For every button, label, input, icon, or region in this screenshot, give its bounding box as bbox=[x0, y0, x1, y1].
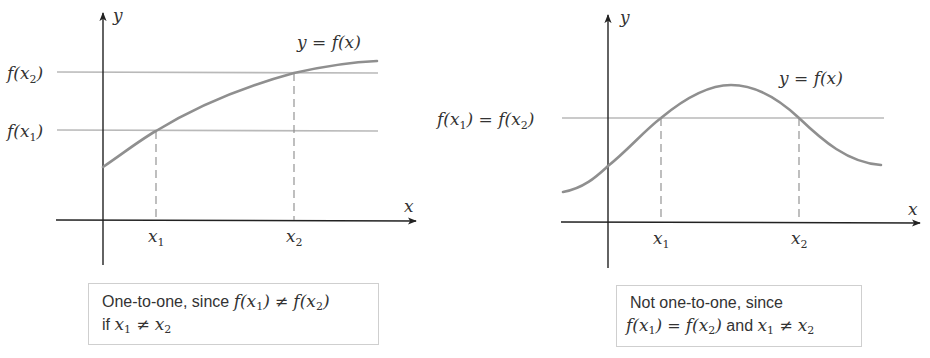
f-x1-label: f(x1) bbox=[5, 121, 43, 144]
caption-math: x2 bbox=[155, 314, 172, 334]
equals-sign: = bbox=[662, 316, 686, 335]
x1-tick-label: x1 bbox=[148, 226, 165, 249]
caption-math: x1 bbox=[757, 315, 774, 335]
f-x1-reference-line bbox=[57, 130, 378, 131]
right-caption-line-1: Not one-to-one, since bbox=[630, 292, 861, 314]
left-caption-box: One-to-one, since f(x1) ≠ f(x2) if x1 ≠ … bbox=[88, 283, 379, 345]
x2-tick-label: x2 bbox=[286, 226, 303, 249]
caption-math: f(x1) bbox=[626, 315, 662, 335]
right-graph: y x y = f(x) f(x1) = f(x2) x1 x2 bbox=[435, 7, 920, 268]
caption-text: if bbox=[102, 316, 114, 333]
not-equal-sign: ≠ bbox=[774, 316, 798, 335]
left-caption-line-2: if x1 ≠ x2 bbox=[102, 313, 378, 336]
right-function-label: y = f(x) bbox=[778, 68, 843, 88]
caption-math: x2 bbox=[798, 315, 815, 335]
x2-tick-label: x2 bbox=[791, 228, 808, 251]
f-x2-label: f(x2) bbox=[5, 63, 43, 86]
right-caption-line-2: f(x1) = f(x2) and x1 ≠ x2 bbox=[626, 314, 861, 337]
not-equal-sign: ≠ bbox=[131, 315, 155, 334]
caption-text: One-to-one, since bbox=[102, 293, 234, 310]
left-function-label: y = f(x) bbox=[296, 32, 361, 52]
left-caption-line-1: One-to-one, since f(x1) ≠ f(x2) bbox=[102, 290, 378, 313]
not-equal-sign: ≠ bbox=[270, 292, 294, 311]
right-x-axis-label: x bbox=[908, 199, 918, 219]
caption-math: f(x1) bbox=[234, 291, 270, 311]
caption-text: and bbox=[722, 317, 758, 334]
left-x-axis-label: x bbox=[404, 196, 414, 216]
caption-text: Not one-to-one, since bbox=[630, 294, 783, 311]
left-y-axis-label: y bbox=[112, 5, 123, 25]
left-x-axis bbox=[56, 220, 416, 221]
increasing-curve bbox=[103, 61, 377, 167]
bell-shaped-curve bbox=[563, 85, 881, 192]
right-y-axis-label: y bbox=[619, 7, 630, 27]
left-graph: y x y = f(x) f(x2) f(x1) x1 x2 bbox=[5, 5, 416, 265]
x1-tick-label: x1 bbox=[653, 228, 670, 251]
caption-math: f(x2) bbox=[293, 291, 329, 311]
right-caption-box: Not one-to-one, since f(x1) = f(x2) and … bbox=[616, 285, 862, 347]
f-x2-reference-line bbox=[57, 72, 378, 73]
caption-math: x1 bbox=[114, 314, 131, 334]
right-x-axis bbox=[561, 222, 920, 223]
caption-math: f(x2) bbox=[686, 315, 722, 335]
equal-values-label: f(x1) = f(x2) bbox=[435, 109, 534, 132]
